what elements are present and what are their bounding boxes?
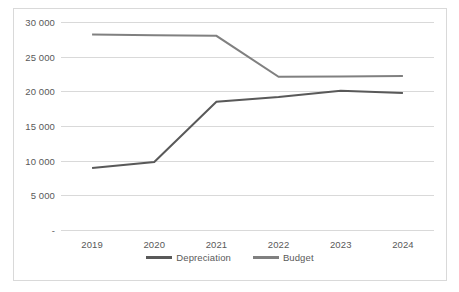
y-axis-tick-label: 25 000 xyxy=(25,51,55,62)
y-axis-tick-label: - xyxy=(52,225,55,236)
y-axis-tick-label: 20 000 xyxy=(25,86,55,97)
legend-swatch-icon xyxy=(146,256,172,259)
x-axis-tick-label: 2020 xyxy=(143,239,165,250)
legend-item-budget[interactable]: Budget xyxy=(253,252,314,263)
chart-container: 30 000 25 000 20 000 15 000 10 000 5 000… xyxy=(13,8,447,281)
legend-label: Budget xyxy=(283,252,314,263)
series-line-depreciation xyxy=(92,91,403,168)
legend-label: Depreciation xyxy=(176,252,231,263)
y-axis-tick-label: 5 000 xyxy=(31,190,55,201)
x-axis-tick-label: 2023 xyxy=(330,239,352,250)
plot-area: 30 000 25 000 20 000 15 000 10 000 5 000… xyxy=(61,22,434,230)
x-axis-tick-label: 2021 xyxy=(206,239,228,250)
y-axis-tick-label: 10 000 xyxy=(25,155,55,166)
y-axis-tick-label: 15 000 xyxy=(25,121,55,132)
legend-item-depreciation[interactable]: Depreciation xyxy=(146,252,231,263)
x-axis-tick-label: 2019 xyxy=(81,239,103,250)
gridline xyxy=(61,230,434,231)
x-axis-tick-label: 2022 xyxy=(268,239,290,250)
y-axis-tick-label: 30 000 xyxy=(25,17,55,28)
series-line-budget xyxy=(92,34,403,76)
chart-legend: Depreciation Budget xyxy=(14,252,446,263)
legend-swatch-icon xyxy=(253,256,279,259)
series-plot xyxy=(61,22,434,230)
x-axis-tick-label: 2024 xyxy=(392,239,414,250)
